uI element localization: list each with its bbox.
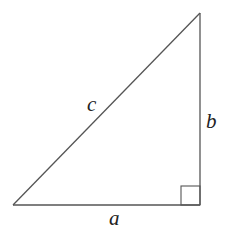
label-b: b — [206, 109, 217, 133]
right-triangle-diagram: c b a — [0, 0, 226, 227]
label-c: c — [87, 92, 97, 116]
right-angle-marker — [181, 186, 200, 205]
side-c-hypotenuse-line — [13, 13, 200, 205]
label-a: a — [109, 206, 120, 227]
